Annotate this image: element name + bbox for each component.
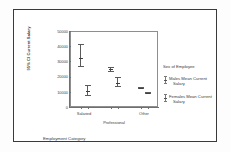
error-bar-cap-lower xyxy=(78,66,84,67)
legend-error-bar-icon xyxy=(164,94,167,102)
legend-title: Sex of Employee xyxy=(163,64,225,69)
figure-border: 95% CI Current Salary 500004000030000200… xyxy=(13,9,217,142)
mean-marker xyxy=(146,93,150,94)
y-tick-mark xyxy=(69,31,71,32)
error-bar-cap-lower xyxy=(85,95,91,96)
y-tick-mark xyxy=(69,61,71,62)
mean-marker xyxy=(79,58,83,59)
x-axis-title: Employment Category xyxy=(43,136,86,141)
y-tick-label: 0 xyxy=(66,105,68,110)
legend-error-bar-icon xyxy=(164,76,167,84)
legend-label-line2: Salary xyxy=(169,99,225,104)
y-tick-label: 40000 xyxy=(57,44,68,49)
legend-label-line2: Salary xyxy=(169,81,225,86)
x-tick-mark xyxy=(141,107,142,109)
error-bar-stem xyxy=(80,44,81,68)
error-bar-cap-upper xyxy=(108,67,114,68)
legend-entries: Males Mean CurrentSalaryFemales Mean Cur… xyxy=(163,76,225,105)
x-axis-line xyxy=(69,107,159,108)
x-tick-mark xyxy=(148,107,149,109)
x-tick-mark xyxy=(118,107,119,109)
error-bar-cap-upper xyxy=(115,77,121,78)
y-tick-label: 30000 xyxy=(57,59,68,64)
x-group-label: Other xyxy=(139,111,149,116)
y-tick-mark xyxy=(69,77,71,78)
legend-entry: Females Mean CurrentSalary xyxy=(163,94,225,105)
error-bar-cap-lower xyxy=(108,71,114,72)
mean-marker xyxy=(139,88,143,89)
x-tick-mark xyxy=(88,107,89,109)
y-tick-label: 20000 xyxy=(57,74,68,79)
y-tick-label: 50000 xyxy=(57,29,68,34)
error-bar-chart: 95% CI Current Salary 500004000030000200… xyxy=(14,10,216,141)
legend-entry: Males Mean CurrentSalary xyxy=(163,76,225,87)
plot-area xyxy=(70,31,158,107)
error-bar-cap-lower xyxy=(115,86,121,87)
error-bar-cap-upper xyxy=(85,85,91,86)
x-tick-mark xyxy=(111,107,112,109)
mean-marker xyxy=(109,69,113,70)
y-tick-mark xyxy=(69,92,71,93)
x-tick-mark xyxy=(81,107,82,109)
x-group-label: Salaried xyxy=(77,111,91,116)
y-tick-mark xyxy=(69,107,71,108)
error-bar-cap-upper xyxy=(78,44,84,45)
y-axis-title: 95% CI Current Salary xyxy=(26,14,31,84)
scanned-page: 95% CI Current Salary 500004000030000200… xyxy=(0,0,230,152)
mean-marker xyxy=(86,91,90,92)
mean-marker xyxy=(116,83,120,84)
y-tick-label: 10000 xyxy=(57,90,68,95)
legend: Sex of Employee Males Mean CurrentSalary… xyxy=(163,64,225,112)
x-group-label: Professional xyxy=(103,120,125,125)
y-tick-mark xyxy=(69,46,71,47)
